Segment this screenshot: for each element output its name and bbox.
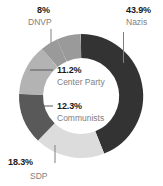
donut-ring — [31, 46, 131, 146]
slice-center-party[interactable] — [31, 58, 50, 94]
label-dnvp-name: DNVP — [28, 17, 52, 27]
label-nazis-percent: 43.9% — [126, 5, 151, 15]
donut-chart-svg: 8% DNVP 43.9% Nazis 11.2% Center Party 1… — [0, 0, 163, 186]
label-center-party-name: Center Party — [57, 77, 105, 87]
slice-dnvp[interactable] — [50, 51, 62, 58]
slice-communists[interactable] — [31, 94, 46, 132]
label-nazis-name: Nazis — [126, 17, 147, 27]
label-communists-name: Communists — [57, 113, 104, 123]
slice-remainder — [62, 46, 81, 51]
label-center-party-percent: 11.2% — [57, 65, 82, 75]
label-sdp-name: SDP — [30, 171, 48, 181]
label-communists-percent: 12.3% — [57, 101, 82, 111]
donut-chart: 8% DNVP 43.9% Nazis 11.2% Center Party 1… — [0, 0, 163, 186]
label-dnvp-percent: 8% — [37, 5, 50, 15]
label-sdp-percent: 18.3% — [8, 157, 33, 167]
slice-sdp[interactable] — [46, 132, 99, 146]
